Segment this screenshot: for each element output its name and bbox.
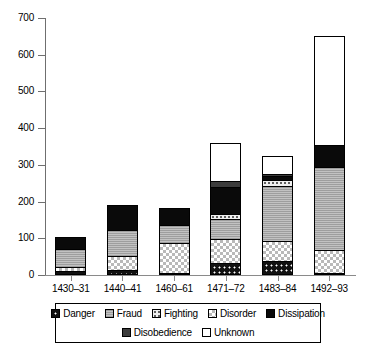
bar-segment-danger — [262, 261, 293, 275]
y-axis-tick — [38, 202, 45, 203]
x-axis-tick — [174, 276, 175, 281]
bar-segment-dissipation — [55, 237, 86, 249]
bar-1440-41 — [107, 205, 138, 275]
bar-segment-disorder — [107, 256, 138, 270]
legend-item-fighting: Fighting — [152, 309, 198, 319]
legend-label: Danger — [63, 309, 95, 319]
legend-swatch-icon — [152, 309, 161, 318]
legend-swatch-icon — [122, 328, 131, 337]
bar-segment-fraud — [210, 219, 241, 238]
bar-1430-31 — [55, 237, 86, 275]
legend-label: Unknown — [214, 328, 254, 338]
x-axis-tick — [71, 276, 72, 281]
y-axis-tick-label: 300 — [0, 160, 34, 170]
x-axis-tick — [226, 276, 227, 281]
bar-segment-fraud — [314, 167, 345, 250]
legend-item-disobedience: Disobedience — [122, 328, 192, 338]
legend-item-unknown: Unknown — [202, 328, 254, 338]
legend-item-fraud: Fraud — [105, 309, 142, 319]
bar-segment-disorder — [314, 250, 345, 273]
bar-segment-fraud — [107, 230, 138, 257]
bar-segment-dissipation — [159, 208, 190, 225]
bar-1492-93 — [314, 36, 345, 275]
legend-label: Fighting — [164, 309, 198, 319]
x-axis-tick-label: 1492–93 — [299, 283, 359, 295]
legend-swatch-icon — [105, 309, 114, 318]
bar-segment-fraud — [55, 249, 86, 267]
x-axis-tick — [278, 276, 279, 281]
y-axis-tick-label: 700 — [0, 13, 34, 23]
bar-1471-72 — [210, 143, 241, 275]
bar-segment-unknown — [314, 36, 345, 145]
legend-swatch-icon — [208, 309, 217, 318]
legend-item-disorder: Disorder — [208, 309, 256, 319]
bar-segment-disorder — [159, 243, 190, 273]
chart-legend: DangerFraudFightingDisorderDissipation D… — [55, 303, 321, 343]
bar-1460-61 — [159, 208, 190, 275]
bar-segment-unknown — [262, 156, 293, 174]
bar-segment-disorder — [262, 241, 293, 261]
stacked-bar-chart: 0100200300400500600700 1430–311440–41146… — [0, 0, 373, 352]
y-axis-tick-label: 200 — [0, 197, 34, 207]
bar-segment-disorder — [210, 239, 241, 263]
y-axis-tick-label: 600 — [0, 50, 34, 60]
y-axis-tick — [38, 91, 45, 92]
legend-swatch-icon — [266, 309, 275, 318]
bar-segment-dissipation — [107, 205, 138, 230]
bar-1483-84 — [262, 156, 293, 275]
legend-item-dissipation: Dissipation — [266, 309, 325, 319]
y-axis-tick — [38, 275, 45, 276]
plot-area — [45, 18, 355, 275]
legend-label: Fraud — [117, 309, 142, 319]
bar-segment-fraud — [262, 186, 293, 241]
bar-segment-fraud — [159, 225, 190, 243]
bar-segment-unknown — [210, 143, 241, 182]
y-axis-tick-label: 0 — [0, 270, 34, 280]
legend-row-1: DangerFraudFightingDisorderDissipation — [56, 304, 320, 323]
legend-item-danger: Danger — [51, 309, 95, 319]
y-axis-tick — [38, 18, 45, 19]
legend-swatch-icon — [51, 309, 60, 318]
legend-label: Disobedience — [134, 328, 192, 338]
x-axis-tick — [122, 276, 123, 281]
y-axis-tick-label: 500 — [0, 86, 34, 96]
y-axis-tick-label: 400 — [0, 123, 34, 133]
y-axis-tick — [38, 55, 45, 56]
bar-segment-dissipation — [314, 145, 345, 167]
y-axis-tick — [38, 238, 45, 239]
y-axis-tick-label: 100 — [0, 233, 34, 243]
legend-row-2: DisobedienceUnknown — [56, 323, 320, 342]
legend-swatch-icon — [202, 328, 211, 337]
y-axis-tick — [38, 128, 45, 129]
bar-segment-dissipation — [210, 187, 241, 215]
legend-label: Dissipation — [278, 309, 325, 319]
y-axis-tick — [38, 165, 45, 166]
legend-label: Disorder — [220, 309, 256, 319]
x-axis-tick — [329, 276, 330, 281]
bar-segment-danger — [210, 263, 241, 275]
x-axis-line — [45, 275, 356, 276]
